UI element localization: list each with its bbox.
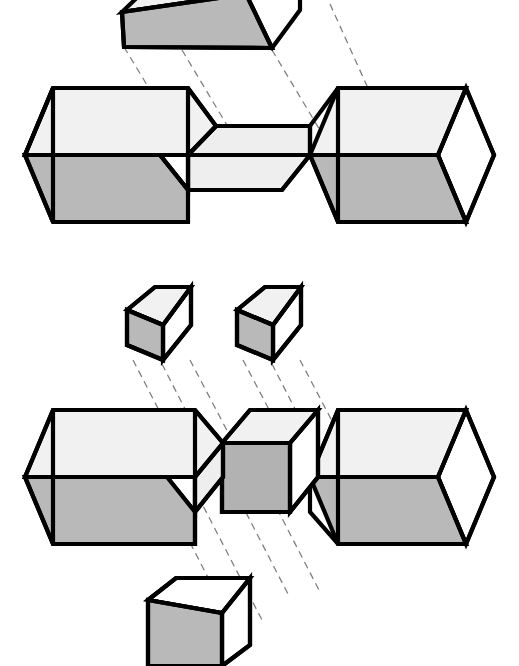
upper-notched-base-block <box>25 88 494 222</box>
lower-center-block <box>222 410 318 512</box>
lower-key-block-left <box>127 287 191 360</box>
view-lower-assembly <box>25 287 494 666</box>
lower-key-block-right <box>237 287 301 360</box>
lower-center-front-face <box>222 443 290 512</box>
isometric-diagram <box>0 0 519 666</box>
lower-base-block-left <box>25 410 223 544</box>
isometric-diagram-canvas <box>0 0 519 666</box>
view-upper-assembly <box>25 0 494 222</box>
lower-base-block-right <box>310 410 494 544</box>
lower-drop-block <box>148 578 250 666</box>
upper-key-block <box>122 0 300 48</box>
